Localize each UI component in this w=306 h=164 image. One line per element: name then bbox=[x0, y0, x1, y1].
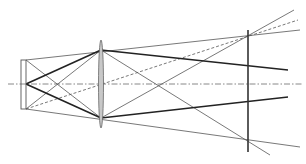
optical-ray-diagram bbox=[0, 0, 306, 164]
convex-lens bbox=[99, 40, 104, 128]
lens bbox=[99, 40, 104, 128]
